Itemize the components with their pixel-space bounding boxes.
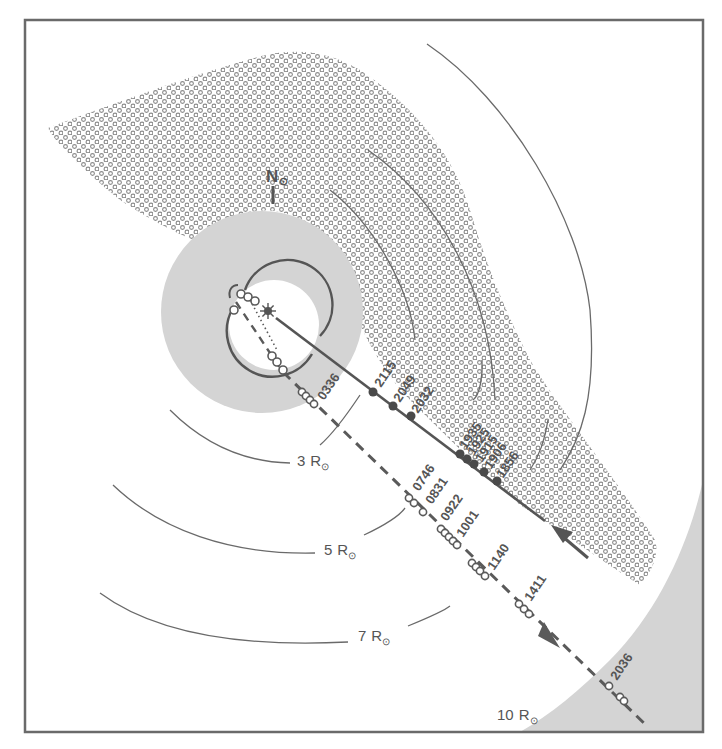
outbound-arrow-icon: [538, 622, 560, 648]
radius-label-3: 3R⊙: [297, 452, 329, 472]
svg-text:1411: 1411: [521, 572, 549, 604]
radius-label-10: 10R⊙: [497, 706, 538, 726]
radius-label-7: 7R⊙: [358, 627, 390, 647]
diagram-canvas: N⊙ 3R⊙ 5R⊙ 7R⊙ 10R⊙ 2115 2049 2032 1935 …: [0, 0, 722, 749]
svg-text:1140: 1140: [484, 541, 512, 573]
radius-label-5: 5R⊙: [324, 541, 356, 561]
svg-text:1001: 1001: [453, 507, 482, 539]
